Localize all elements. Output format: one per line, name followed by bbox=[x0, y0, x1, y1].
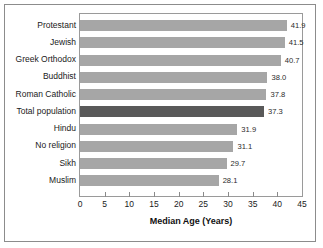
category-label: Jewish bbox=[6, 37, 76, 48]
category-label: Hindu bbox=[6, 123, 76, 134]
x-tick-label: 35 bbox=[248, 199, 257, 209]
bar-highlighted bbox=[80, 106, 264, 117]
x-axis-title: Median Age (Years) bbox=[79, 216, 303, 226]
bar bbox=[80, 20, 287, 31]
bar bbox=[80, 37, 285, 48]
bar-value-label: 31.9 bbox=[241, 124, 256, 135]
category-label: Sikh bbox=[6, 158, 76, 169]
x-tick-label: 40 bbox=[273, 199, 282, 209]
bar bbox=[80, 89, 266, 100]
category-label: No religion bbox=[6, 140, 76, 151]
bar bbox=[80, 158, 227, 169]
bars-layer bbox=[80, 14, 302, 196]
bar-value-label: 37.8 bbox=[270, 89, 285, 100]
bar-value-label: 28.1 bbox=[223, 175, 238, 186]
bar bbox=[80, 175, 219, 186]
bar bbox=[80, 72, 267, 83]
x-axis-tick-labels: 051015202530354045 bbox=[79, 199, 303, 213]
x-tick-label: 0 bbox=[78, 199, 83, 209]
x-tick-label: 20 bbox=[174, 199, 183, 209]
category-label: Muslim bbox=[6, 175, 76, 186]
category-label: Total population bbox=[6, 106, 76, 117]
x-tick-label: 30 bbox=[223, 199, 232, 209]
bar-value-label: 38.0 bbox=[271, 72, 286, 83]
bar bbox=[80, 141, 233, 152]
x-tick-label: 10 bbox=[125, 199, 134, 209]
bar-value-label: 31.1 bbox=[237, 141, 252, 152]
bar-value-label: 29.7 bbox=[231, 158, 246, 169]
bar-value-label: 37.3 bbox=[268, 106, 283, 117]
x-tick-label: 15 bbox=[149, 199, 158, 209]
bar-value-label: 40.7 bbox=[285, 55, 300, 66]
bar bbox=[80, 55, 281, 66]
category-label: Buddhist bbox=[6, 71, 76, 82]
plot-area bbox=[79, 13, 303, 197]
category-label: Protestant bbox=[6, 20, 76, 31]
x-tick-label: 45 bbox=[297, 199, 306, 209]
x-tick-label: 25 bbox=[199, 199, 208, 209]
bar bbox=[80, 124, 237, 135]
category-label: Roman Catholic bbox=[6, 89, 76, 100]
category-label: Greek Orthodox bbox=[6, 54, 76, 65]
bar-value-label: 41.5 bbox=[289, 37, 304, 48]
bar-value-label: 41.9 bbox=[291, 20, 306, 31]
figure-root: ProtestantJewishGreek OrthodoxBuddhistRo… bbox=[0, 0, 323, 248]
x-tick-label: 5 bbox=[102, 199, 107, 209]
